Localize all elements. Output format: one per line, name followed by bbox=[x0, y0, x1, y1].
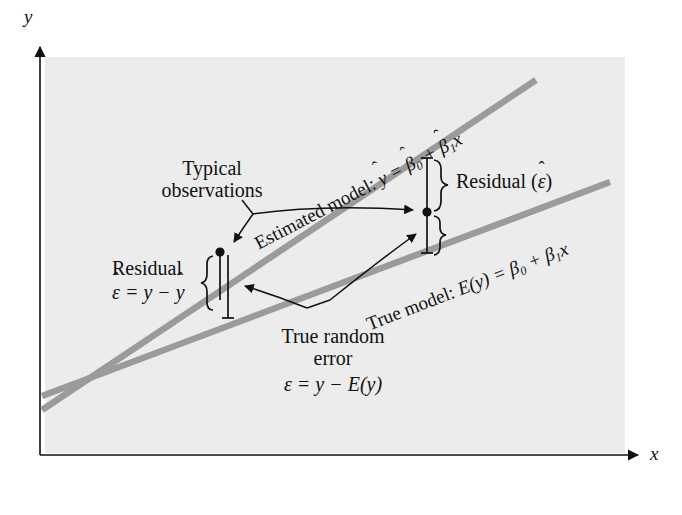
residual-right-close: ) bbox=[546, 170, 553, 192]
residual-right-hat-mark: ˆ bbox=[539, 159, 545, 177]
residual-left-hat-mark: ˆ bbox=[113, 270, 119, 288]
true-random-error-line2: error bbox=[238, 347, 428, 369]
right-observation-point bbox=[422, 207, 431, 216]
x-axis-label: x bbox=[650, 443, 658, 464]
typical-observations-line1: Typical bbox=[142, 157, 282, 179]
residual-left-word: Residual bbox=[112, 257, 185, 279]
typical-observations-label: Typical observations bbox=[142, 157, 282, 202]
left-observation-point bbox=[215, 247, 224, 256]
residual-left-yhat-mark: ˆ bbox=[177, 270, 183, 288]
true-random-error-label: True random error ε = y − E(y) bbox=[238, 325, 428, 395]
residual-right-text: Residual ( bbox=[456, 170, 538, 192]
true-random-error-rest: = y − E(y) bbox=[292, 373, 382, 395]
residual-left-equation: ˆε = y − ˆy bbox=[112, 281, 185, 303]
typical-observations-line2: observations bbox=[142, 179, 282, 201]
true-random-error-equation: ε = y − E(y) bbox=[238, 373, 428, 395]
residual-right-label: Residual (ˆε) bbox=[456, 170, 552, 192]
regression-diagram: y x Typical observations Estimated model… bbox=[0, 0, 682, 515]
residual-left-label: Residual ˆε = y − ˆy bbox=[112, 257, 185, 304]
y-axis-label: y bbox=[24, 6, 32, 27]
diagram-canvas bbox=[0, 0, 682, 515]
true-random-error-eps: ε bbox=[284, 373, 292, 395]
true-random-error-line1: True random bbox=[238, 325, 428, 347]
residual-left-mid: = y − bbox=[120, 281, 176, 303]
